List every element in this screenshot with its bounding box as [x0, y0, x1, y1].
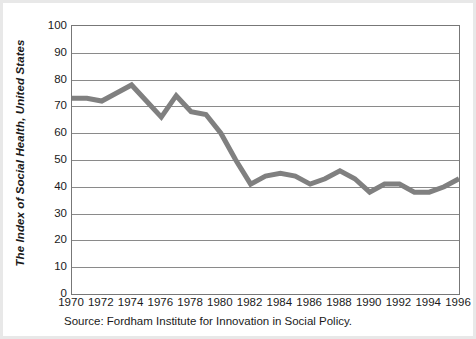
x-axis-tick-label: 1974	[118, 296, 144, 308]
y-axis-tick-label: 20	[54, 233, 67, 245]
x-axis-tick-label: 1978	[177, 296, 203, 308]
plot-area	[71, 25, 460, 295]
chart-figure: The Index of Social Health, United State…	[0, 0, 476, 339]
y-axis-tick-label: 40	[54, 180, 67, 192]
y-axis-tick-label: 70	[54, 99, 67, 111]
y-axis-tick-label: 50	[54, 153, 67, 165]
y-axis-tick-label: 60	[54, 126, 67, 138]
y-axis-tick-label: 80	[54, 73, 67, 85]
y-axis-tick-label: 100	[48, 19, 67, 31]
x-axis-tick-label: 1976	[148, 296, 174, 308]
x-axis-tick-label: 1972	[88, 296, 114, 308]
x-axis-tick-label: 1992	[386, 296, 412, 308]
x-axis-tick-label: 1980	[207, 296, 233, 308]
y-axis-tick-label: 30	[54, 207, 67, 219]
data-series-line	[72, 26, 459, 294]
y-axis-tick-label: 10	[54, 260, 67, 272]
source-caption: Source: Fordham Institute for Innovation…	[64, 315, 352, 327]
x-axis-tick-label: 1970	[58, 296, 84, 308]
x-axis-tick-label: 1996	[445, 296, 471, 308]
x-axis-tick-label: 1990	[356, 296, 382, 308]
y-axis-tick-label: 90	[54, 46, 67, 58]
y-axis-tick-labels: 1009080706050403020100	[33, 3, 67, 303]
x-axis-tick-label: 1994	[415, 296, 441, 308]
x-axis-tick-label: 1984	[267, 296, 293, 308]
x-axis-tick-label: 1988	[326, 296, 352, 308]
x-axis-tick-label: 1986	[296, 296, 322, 308]
x-axis-tick-label: 1982	[237, 296, 263, 308]
x-axis-tick-labels: 1970197219741976197819801982198419861988…	[3, 296, 476, 316]
plot-area-wrapper: 1009080706050403020100	[3, 3, 476, 303]
